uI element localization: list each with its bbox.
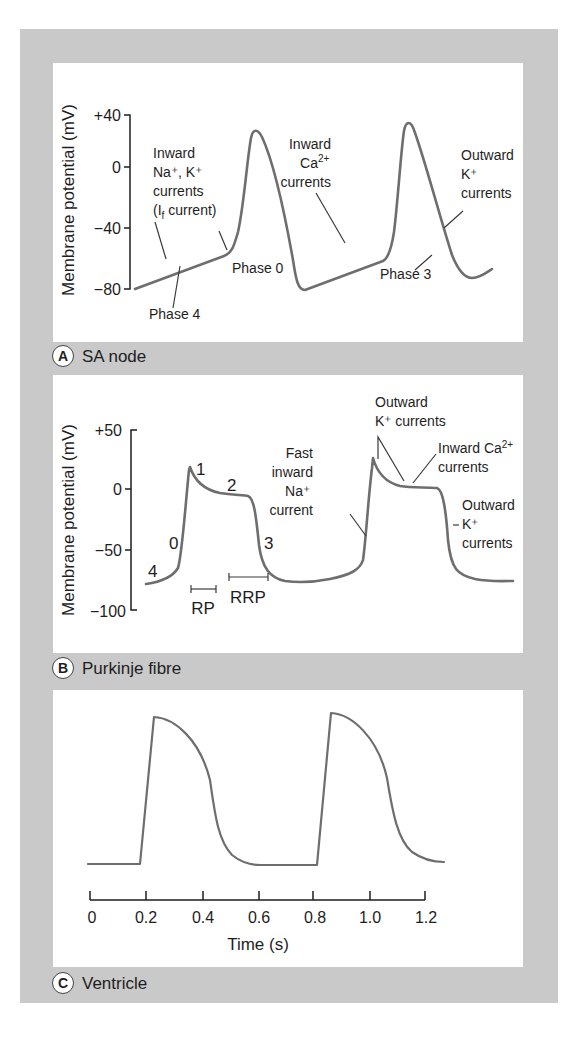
panel-b-note-outward-k-right-line2: K⁺ [462, 516, 478, 532]
panel-b-phase-2: 2 [227, 476, 236, 495]
panel-b-phase-1: 1 [196, 460, 205, 479]
panel-b-note-outward-k-top-line1: Outward [375, 394, 428, 410]
panel-b-letter: B [58, 660, 68, 676]
panel-a-note-inward-ca-line3: currents [280, 174, 331, 190]
panel-b-phase-4: 4 [148, 562, 157, 581]
panel-c-tick-0-8: 0.8 [304, 909, 326, 926]
panel-c-tick-0-4: 0.4 [192, 909, 214, 926]
panel-c-tick-1-2: 1.2 [415, 909, 437, 926]
panel-b-rp-label: RP [191, 599, 215, 618]
panel-c-tick-0: 0 [88, 909, 97, 926]
panel-b-note-inward-ca-line2: currents [438, 459, 489, 475]
panel-a-note-phase4: Phase 4 [149, 306, 201, 322]
panel-b-note-fast-na-line2: inward [272, 464, 313, 480]
panel-c-title: Ventricle [82, 974, 147, 993]
panel-a-note-inward-ca-sup: 2+ [318, 153, 330, 164]
panel-c: 0 0.2 0.4 0.6 0.8 1.0 1.2 Time (s) C Ven… [53, 690, 524, 994]
panel-b: Membrane potential (mV) +50 0 −50 −100 R… [53, 375, 524, 679]
panel-c-label: C Ventricle [53, 973, 148, 994]
panel-b-note-fast-na-line3: Na⁺ [285, 483, 310, 499]
panel-a-tick-0: 0 [112, 159, 121, 176]
panel-a-note-inward-na-k-line1: Inward [153, 145, 195, 161]
panel-c-letter: C [58, 975, 68, 991]
panel-b-tick-plus50: +50 [95, 422, 122, 439]
panel-c-tick-0-6: 0.6 [248, 909, 270, 926]
panel-b-phase-0: 0 [169, 534, 178, 553]
panel-a-label: A SA node [53, 346, 147, 367]
panel-b-note-fast-na-line4: current [269, 502, 313, 518]
panel-b-note-outward-k-right-line1: Outward [462, 497, 515, 513]
panel-b-title: Purkinje fibre [82, 659, 181, 678]
panel-b-note-outward-k-right-line3: currents [462, 535, 513, 551]
panel-a-tick-plus40: +40 [94, 107, 121, 124]
panel-b-phase-3: 3 [264, 534, 273, 553]
panel-a-note-phase3: Phase 3 [380, 266, 432, 282]
panel-b-tick-0: 0 [113, 481, 122, 498]
panel-c-tick-1-0: 1.0 [359, 909, 381, 926]
panel-a-letter: A [58, 348, 68, 364]
cardiac-action-potential-figure: Membrane potential (mV) +40 0 −40 −80 In… [0, 0, 577, 1039]
panel-b-note-fast-na-line1: Fast [286, 445, 313, 461]
panel-a-note-phase0: Phase 0 [232, 260, 284, 276]
panel-a-background [53, 63, 523, 342]
panel-a-note-inward-ca-line1: Inward [289, 136, 331, 152]
panel-c-x-axis-title: Time (s) [227, 935, 289, 954]
panel-a-note-inward-na-k-line2: Na⁺, K⁺ [153, 164, 202, 180]
panel-c-background [53, 690, 523, 967]
panel-c-tick-0-2: 0.2 [135, 909, 157, 926]
panel-b-tick-minus50: −50 [95, 542, 122, 559]
panel-b-note-outward-k-top-line2: K⁺ currents [375, 413, 446, 429]
panel-a-note-inward-na-k-line3: currents [153, 183, 204, 199]
panel-b-y-axis-title: Membrane potential (mV) [59, 424, 78, 616]
panel-b-tick-minus100: −100 [90, 603, 126, 620]
panel-a-tick-minus80: −80 [94, 281, 121, 298]
panel-a-tick-minus40: −40 [94, 220, 121, 237]
panel-b-rrp-label: RRP [230, 588, 266, 607]
panel-a-note-outward-k-line3: currents [461, 185, 512, 201]
panel-a-note-inward-ca-line2: Ca [300, 155, 318, 171]
panel-a-note-outward-k-line1: Outward [461, 147, 514, 163]
panel-a-y-axis-title: Membrane potential (mV) [59, 104, 78, 296]
panel-a: Membrane potential (mV) +40 0 −40 −80 In… [53, 63, 524, 367]
panel-a-note-outward-k-line2: K⁺ [461, 166, 477, 182]
panel-a-title: SA node [82, 347, 146, 366]
